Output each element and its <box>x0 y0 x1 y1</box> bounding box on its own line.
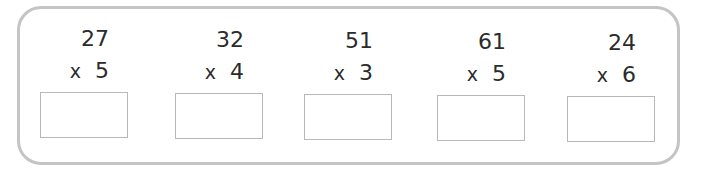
multiply-operator: x <box>467 63 478 85</box>
multiplier: 3 <box>359 60 373 85</box>
multiplicand: 51 <box>345 30 373 52</box>
multiplier-row: x3 <box>334 62 373 84</box>
multiply-operator: x <box>597 64 608 86</box>
multiplicand: 32 <box>216 29 244 51</box>
multiplier-row: x5 <box>70 60 109 82</box>
answer-box[interactable] <box>175 93 263 139</box>
multiplicand: 61 <box>478 31 506 53</box>
multiplicand: 27 <box>81 28 109 50</box>
problem-1: 27 x5 <box>40 28 130 178</box>
problem-2: 32 x4 <box>175 29 265 179</box>
answer-box[interactable] <box>567 96 655 142</box>
answer-box[interactable] <box>304 94 392 140</box>
multiplier: 5 <box>95 58 109 83</box>
multiply-operator: x <box>70 60 81 82</box>
problem-5: 24 x6 <box>567 32 657 179</box>
multiplier-row: x4 <box>205 61 244 83</box>
multiply-operator: x <box>334 62 345 84</box>
problem-4: 61 x5 <box>437 31 527 179</box>
multiply-operator: x <box>205 61 216 83</box>
answer-box[interactable] <box>437 95 525 141</box>
multiplier: 6 <box>622 62 636 87</box>
answer-box[interactable] <box>40 92 128 138</box>
multiplicand: 24 <box>608 32 636 54</box>
multiplier-row: x6 <box>597 64 636 86</box>
multiplier-row: x5 <box>467 63 506 85</box>
problem-3: 51 x3 <box>304 30 394 179</box>
multiplier: 4 <box>230 59 244 84</box>
multiplier: 5 <box>492 61 506 86</box>
